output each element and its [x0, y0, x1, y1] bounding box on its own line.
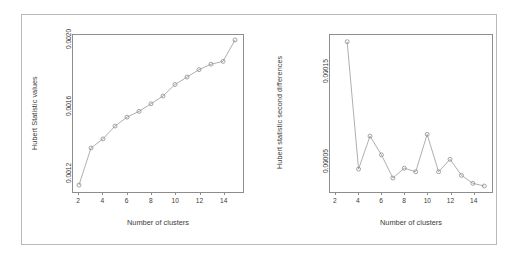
x-tick-label: 14 — [220, 197, 227, 204]
x-tick-label: 2 — [76, 197, 80, 204]
series-line — [347, 42, 484, 186]
y-tick-label: 0.00005 — [322, 149, 329, 173]
x-tick-label: 6 — [125, 197, 129, 204]
chart-panel-right: Hubert statistic second differences 0.00… — [267, 15, 498, 246]
x-axis-title-right: Number of clusters — [380, 218, 442, 227]
x-tick-mark — [102, 192, 103, 195]
x-tick-label: 10 — [172, 197, 179, 204]
figure-canvas: Hubert Statistic values 0.00120.00160.00… — [0, 0, 518, 259]
x-axis-title-left: Number of clusters — [127, 218, 189, 227]
x-tick-mark — [404, 192, 405, 195]
chart-panel-left: Hubert Statistic values 0.00120.00160.00… — [22, 15, 267, 246]
x-tick-mark — [335, 192, 336, 195]
x-tick-label: 10 — [424, 197, 431, 204]
x-tick-mark — [78, 192, 79, 195]
series-left — [73, 35, 243, 192]
x-tick-label: 4 — [356, 197, 360, 204]
series-line — [79, 40, 235, 185]
y-tick-label: 0.0020 — [65, 29, 72, 49]
x-tick-mark — [381, 192, 382, 195]
y-axis-title-left: Hubert Statistic values — [30, 76, 39, 150]
y-axis-title-right: Hubert statistic second differences — [275, 56, 284, 169]
x-tick-mark — [358, 192, 359, 195]
plot-area-right — [329, 34, 493, 193]
x-tick-mark — [175, 192, 176, 195]
x-tick-mark — [151, 192, 152, 195]
x-tick-label: 8 — [402, 197, 406, 204]
x-tick-label: 12 — [447, 197, 454, 204]
y-tick-label: 0.00015 — [322, 59, 329, 83]
y-tick-label: 0.0016 — [65, 96, 72, 116]
x-tick-label: 8 — [149, 197, 153, 204]
x-tick-label: 12 — [196, 197, 203, 204]
plot-area-left — [72, 34, 244, 193]
x-tick-mark — [474, 192, 475, 195]
x-tick-label: 6 — [379, 197, 383, 204]
x-tick-mark — [224, 192, 225, 195]
x-tick-mark — [127, 192, 128, 195]
figure-outer-frame: Hubert Statistic values 0.00120.00160.00… — [21, 14, 497, 245]
series-right — [330, 35, 492, 192]
x-tick-label: 2 — [333, 197, 337, 204]
y-tick-label: 0.0012 — [65, 162, 72, 182]
x-tick-label: 4 — [101, 197, 105, 204]
x-tick-mark — [427, 192, 428, 195]
x-tick-mark — [200, 192, 201, 195]
x-tick-label: 14 — [470, 197, 477, 204]
x-tick-mark — [451, 192, 452, 195]
